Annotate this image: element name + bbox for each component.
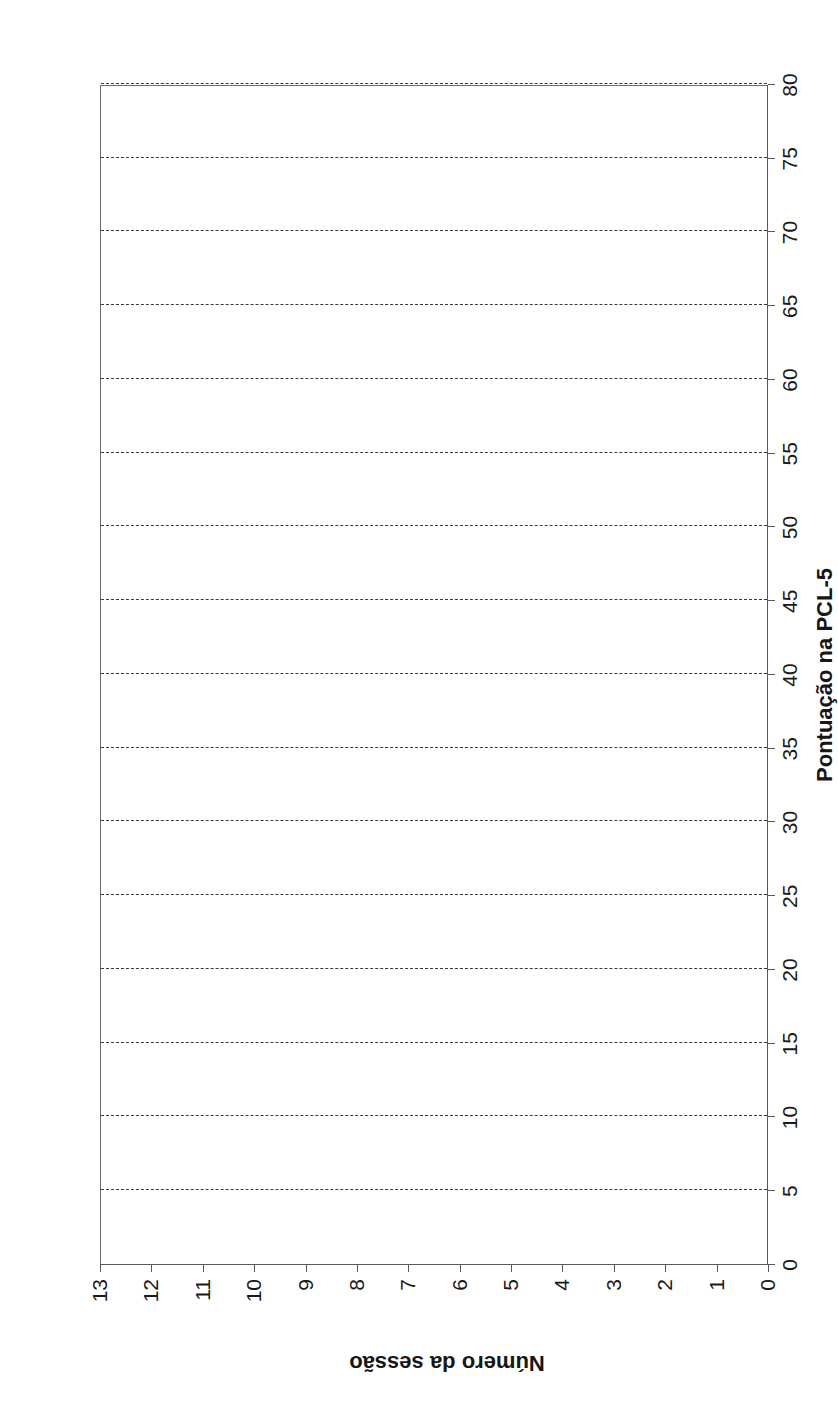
pcl5-axis-tick-mark — [768, 1264, 775, 1265]
session-axis-tick-label: 3 — [602, 1279, 626, 1291]
pcl5-axis-tick-mark — [768, 84, 775, 85]
pcl5-axis-tick-mark — [768, 305, 775, 306]
gridline — [101, 231, 767, 232]
pcl5-axis-title: Pontuação na PCL-5 — [812, 85, 838, 1265]
session-axis-tick-mark — [614, 1265, 615, 1272]
pcl5-axis-tick-label: 35 — [778, 737, 802, 760]
session-axis-tick-label: 0 — [756, 1279, 780, 1291]
gridline — [101, 968, 767, 969]
gridline — [101, 83, 767, 84]
pcl5-axis-tick-label: 15 — [778, 1032, 802, 1055]
session-axis-tick-mark — [665, 1265, 666, 1272]
pcl5-axis-tick-label: 20 — [778, 958, 802, 981]
gridline — [101, 1116, 767, 1117]
session-axis-tick-label: 2 — [653, 1279, 677, 1291]
pcl5-axis-tick-labels: 05101520253035404550556065707580 — [768, 85, 808, 1265]
gridline — [101, 1189, 767, 1190]
pcl5-axis-tick-label: 0 — [778, 1259, 802, 1271]
pcl5-axis-tick-label: 10 — [778, 1106, 802, 1129]
session-axis-tick-mark — [511, 1265, 512, 1272]
gridline — [101, 526, 767, 527]
pcl5-axis-tick-mark — [768, 600, 775, 601]
pcl5-axis-tick-mark — [768, 453, 775, 454]
session-axis-tick-mark — [768, 1265, 769, 1272]
session-axis-tick-mark — [203, 1265, 204, 1272]
pcl5-axis-tick-mark — [768, 748, 775, 749]
pcl5-axis-tick-mark — [768, 1190, 775, 1191]
pcl5-axis-tick-label: 40 — [778, 663, 802, 686]
session-axis-tick-mark — [357, 1265, 358, 1272]
session-axis-tick-mark — [460, 1265, 461, 1272]
gridline — [101, 1042, 767, 1043]
session-axis-tick-label: 8 — [345, 1279, 369, 1291]
session-axis-title: Número da sessão — [113, 1350, 781, 1376]
pcl5-axis-tick-label: 30 — [778, 811, 802, 834]
pcl5-axis-tick-label: 65 — [778, 295, 802, 318]
session-axis-tick-label: 5 — [499, 1279, 523, 1291]
pcl5-axis-tick-label: 60 — [778, 368, 802, 391]
session-axis-tick-mark — [717, 1265, 718, 1272]
pcl5-axis-tick-label: 55 — [778, 442, 802, 465]
gridline — [101, 452, 767, 453]
pcl5-axis-tick-mark — [768, 232, 775, 233]
session-axis-tick-label: 9 — [294, 1279, 318, 1291]
pcl5-axis-tick-mark — [768, 379, 775, 380]
session-axis-tick-label: 1 — [705, 1279, 729, 1291]
pcl5-axis-tick-label: 70 — [778, 221, 802, 244]
session-axis-tick-mark — [100, 1265, 101, 1272]
session-axis-tick-labels: 012345678910111213 — [100, 1265, 768, 1407]
session-axis-tick-label: 13 — [88, 1279, 112, 1302]
gridline — [101, 378, 767, 379]
pcl5-axis-tick-mark — [768, 1043, 775, 1044]
pcl5-axis-tick-label: 5 — [778, 1185, 802, 1197]
gridline — [101, 894, 767, 895]
gridline — [101, 821, 767, 822]
pcl5-axis-tick-mark — [768, 822, 775, 823]
gridline — [101, 304, 767, 305]
pcl5-axis-tick-mark — [768, 158, 775, 159]
pcl5-axis-tick-mark — [768, 674, 775, 675]
session-axis-tick-label: 4 — [550, 1279, 574, 1291]
session-axis-tick-mark — [254, 1265, 255, 1272]
pcl5-axis-tick-label: 25 — [778, 885, 802, 908]
session-axis-tick-label: 6 — [448, 1279, 472, 1291]
session-axis-tick-mark — [562, 1265, 563, 1272]
session-axis-tick-label: 11 — [191, 1279, 215, 1301]
gridline — [101, 673, 767, 674]
session-axis-tick-mark — [151, 1265, 152, 1272]
session-axis-tick-label: 10 — [242, 1279, 266, 1302]
pcl5-axis-tick-mark — [768, 895, 775, 896]
pcl5-axis-tick-mark — [768, 969, 775, 970]
session-axis-tick-mark — [408, 1265, 409, 1272]
pcl5-axis-tick-mark — [768, 1117, 775, 1118]
plot-area — [100, 85, 768, 1265]
session-axis-tick-label: 12 — [139, 1279, 163, 1302]
pcl5-axis-tick-label: 50 — [778, 516, 802, 539]
gridline — [101, 747, 767, 748]
pcl5-axis-tick-label: 75 — [778, 147, 802, 170]
data-series-layer — [101, 86, 767, 1264]
session-axis-tick-label: 7 — [396, 1279, 420, 1291]
pcl5-axis-tick-label: 45 — [778, 590, 802, 613]
pcl5-axis-tick-label: 80 — [778, 73, 802, 96]
gridline — [101, 157, 767, 158]
gridline — [101, 599, 767, 600]
pcl5-axis-tick-mark — [768, 527, 775, 528]
session-axis-tick-mark — [306, 1265, 307, 1272]
